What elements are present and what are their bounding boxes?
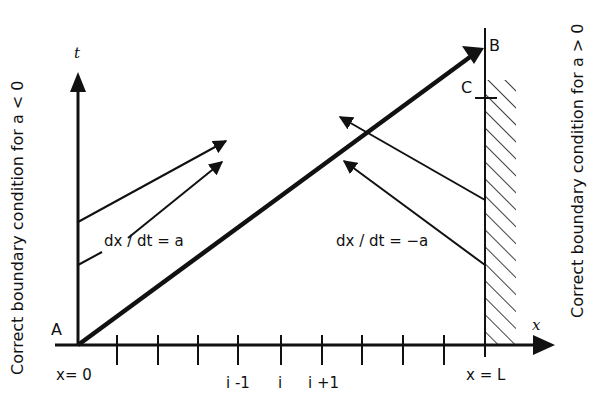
left-characteristic-lower-b — [128, 162, 222, 238]
tick-label-xl: x = L — [466, 368, 505, 383]
point-a-label: A — [51, 322, 62, 338]
right-boundary-condition-label: Correct boundary condition for a > 0 — [570, 23, 586, 318]
point-c-label: C — [461, 80, 472, 96]
main-characteristic-ab — [78, 57, 470, 345]
left-characteristic-lower-a — [78, 252, 102, 265]
t-axis-label: t — [74, 46, 80, 61]
characteristic-label-positive: dx / dt = a — [104, 234, 184, 249]
left-boundary-condition-label: Correct boundary condition for a < 0 — [10, 80, 26, 375]
characteristics-diagram — [0, 0, 593, 404]
point-b-label: B — [489, 38, 500, 54]
tick-label-i-minus-1: i -1 — [226, 376, 250, 391]
left-characteristic-upper — [78, 141, 226, 222]
tick-label-i: i — [278, 376, 282, 391]
tick-label-i-plus-1: i +1 — [308, 376, 339, 391]
boundary-hatch-region — [486, 80, 516, 345]
t-axis-arrowhead-icon — [70, 72, 86, 92]
x-axis-label: x — [532, 318, 540, 333]
tick-label-x0: x= 0 — [56, 368, 92, 383]
x-axis-ticks — [117, 335, 444, 365]
x-axis-arrowhead-icon — [533, 335, 555, 355]
right-characteristic-upper — [340, 117, 485, 200]
characteristic-label-negative: dx / dt = −a — [336, 234, 428, 249]
